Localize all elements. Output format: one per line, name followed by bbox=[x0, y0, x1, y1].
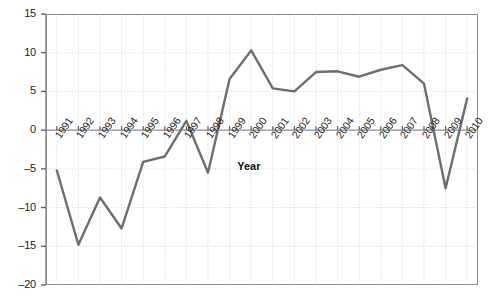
x-axis-title: Year bbox=[237, 160, 260, 172]
plot-area-frame bbox=[46, 14, 478, 285]
y-tick-label: 5 bbox=[2, 85, 36, 96]
chart-container: 151050–5–10–15–20 1991199219931994199519… bbox=[0, 0, 490, 300]
y-tick-label: –10 bbox=[2, 202, 36, 213]
y-tick-label: –20 bbox=[2, 279, 36, 290]
y-tick-label: 0 bbox=[2, 124, 36, 135]
y-tick-label: –15 bbox=[2, 240, 36, 251]
y-tick-label: 10 bbox=[2, 47, 36, 58]
y-tick-label: –5 bbox=[2, 163, 36, 174]
y-tick-label: 15 bbox=[2, 8, 36, 19]
